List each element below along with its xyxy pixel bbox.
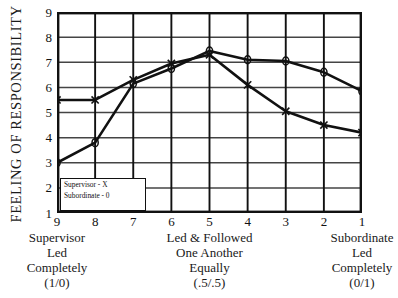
x-tick-1: 1 — [352, 215, 372, 228]
y-tick-7: 7 — [36, 56, 52, 69]
y-tick-9: 9 — [36, 6, 52, 19]
axis-caption-group-3: SubordinateLedCompletely(0/1) — [297, 230, 398, 290]
y-tick-5: 5 — [36, 106, 52, 119]
caption-line: Subordinate — [297, 230, 398, 245]
legend-entry-subordinate: Subordinate - 0 — [64, 191, 142, 202]
y-tick-2: 2 — [36, 181, 52, 194]
caption-line: Equally — [145, 260, 275, 275]
y-tick-4: 4 — [36, 131, 52, 144]
axis-caption-group-2: Led & FollowedOne AnotherEqually(.5/.5) — [145, 230, 275, 290]
caption-line: Led & Followed — [145, 230, 275, 245]
x-tick-9: 9 — [47, 215, 67, 228]
caption-line: (.5/.5) — [145, 275, 275, 290]
chart-legend: Supervisor - X Subordinate - 0 — [60, 178, 146, 211]
x-tick-4: 4 — [238, 215, 258, 228]
caption-line: Completely — [297, 260, 398, 275]
caption-line: (1/0) — [0, 275, 122, 290]
caption-line: Led — [0, 245, 122, 260]
y-axis-tick-labels: 987654321 — [34, 0, 52, 225]
y-tick-8: 8 — [36, 31, 52, 44]
y-tick-6: 6 — [36, 81, 52, 94]
caption-line: (0/1) — [297, 275, 398, 290]
x-tick-6: 6 — [161, 215, 181, 228]
x-tick-7: 7 — [123, 215, 143, 228]
x-axis-captions: SupervisorLedCompletely(1/0)Led & Follow… — [0, 230, 372, 298]
axis-caption-group-1: SupervisorLedCompletely(1/0) — [0, 230, 122, 290]
caption-line: Completely — [0, 260, 122, 275]
caption-line: Led — [297, 245, 398, 260]
x-axis-tick-labels: 987654321 — [0, 215, 372, 231]
x-tick-2: 2 — [314, 215, 334, 228]
y-tick-3: 3 — [36, 156, 52, 169]
caption-line: Supervisor — [0, 230, 122, 245]
x-tick-5: 5 — [200, 215, 220, 228]
y-axis-title: FEELING OF RESPONSIBILITY — [8, 7, 25, 223]
x-tick-3: 3 — [276, 215, 296, 228]
legend-entry-supervisor: Supervisor - X — [64, 180, 142, 191]
caption-line: One Another — [145, 245, 275, 260]
x-tick-8: 8 — [85, 215, 105, 228]
